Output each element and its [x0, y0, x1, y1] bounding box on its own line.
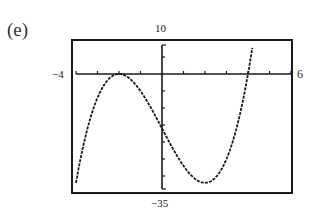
axis-ticks: [76, 45, 291, 189]
function-curve: [76, 48, 252, 183]
graph-window: [0, 0, 313, 216]
viewing-window-frame: [72, 40, 292, 193]
axes: [76, 45, 291, 189]
